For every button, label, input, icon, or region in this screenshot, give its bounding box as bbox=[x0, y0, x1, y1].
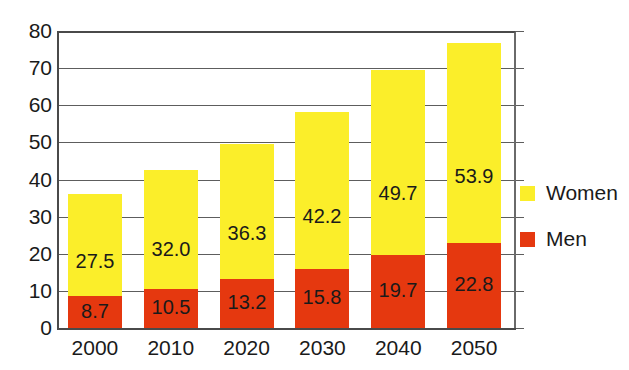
x-axis-tick-label: 2050 bbox=[434, 336, 514, 360]
data-label-men: 10.5 bbox=[144, 296, 198, 319]
y-axis-tick-label: 0 bbox=[4, 316, 52, 340]
data-label-women: 49.7 bbox=[371, 182, 425, 205]
bar-segment-women bbox=[371, 70, 425, 255]
x-axis-tick-label: 2010 bbox=[131, 336, 211, 360]
bar-segment-women bbox=[447, 43, 501, 243]
data-label-women: 53.9 bbox=[447, 165, 501, 188]
data-label-women: 32.0 bbox=[144, 238, 198, 261]
data-label-women: 42.2 bbox=[295, 205, 349, 228]
data-label-women: 27.5 bbox=[68, 250, 122, 273]
x-axis-tick-label: 2040 bbox=[358, 336, 438, 360]
data-label-men: 15.8 bbox=[295, 286, 349, 309]
data-label-men: 8.7 bbox=[68, 300, 122, 323]
bar-segment-women bbox=[220, 144, 274, 279]
bar-segment-women bbox=[68, 194, 122, 296]
x-axis-tick-label: 2000 bbox=[55, 336, 135, 360]
legend-swatch-women bbox=[520, 186, 535, 201]
bar-segment-women bbox=[144, 170, 198, 289]
data-label-men: 22.8 bbox=[447, 273, 501, 296]
y-axis-tick-label: 10 bbox=[4, 279, 52, 303]
y-axis-tick-label: 40 bbox=[4, 168, 52, 192]
y-axis-tick-label: 60 bbox=[4, 93, 52, 117]
stacked-bar-chart: 01020304050607080 27.58.732.010.536.313.… bbox=[0, 0, 629, 370]
data-label-men: 19.7 bbox=[371, 279, 425, 302]
data-label-men: 13.2 bbox=[220, 291, 274, 314]
legend-label: Men bbox=[546, 227, 587, 251]
y-axis: 01020304050607080 bbox=[0, 0, 52, 370]
legend-swatch-men bbox=[520, 232, 535, 247]
y-axis-tick-label: 70 bbox=[4, 56, 52, 80]
bar-segment-women bbox=[295, 112, 349, 269]
legend-item: Men bbox=[520, 228, 625, 250]
legend-label: Women bbox=[546, 181, 618, 205]
x-axis-tick-label: 2030 bbox=[282, 336, 362, 360]
y-axis-tick-label: 30 bbox=[4, 205, 52, 229]
legend: WomenMen bbox=[520, 182, 625, 274]
y-axis-tick-label: 80 bbox=[4, 19, 52, 43]
legend-item: Women bbox=[520, 182, 625, 204]
y-axis-tick-label: 50 bbox=[4, 130, 52, 154]
y-axis-tick-label: 20 bbox=[4, 242, 52, 266]
data-label-women: 36.3 bbox=[220, 222, 274, 245]
x-axis-tick-label: 2020 bbox=[207, 336, 287, 360]
x-axis-line bbox=[57, 328, 516, 330]
